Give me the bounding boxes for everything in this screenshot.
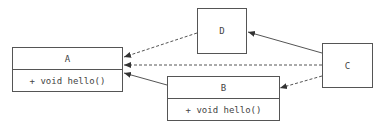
class-b-name: B	[168, 77, 279, 99]
class-c-name: C	[345, 61, 350, 71]
class-b-method: + void hello()	[168, 99, 279, 120]
class-a-name: A	[13, 48, 122, 70]
class-b[interactable]: B + void hello()	[167, 76, 280, 121]
edge-d-to-a	[124, 33, 197, 57]
class-d[interactable]: D	[197, 8, 247, 54]
class-d-name: D	[219, 26, 224, 36]
edge-c-to-d	[248, 32, 322, 53]
edge-b-to-a	[124, 73, 167, 85]
class-a[interactable]: A + void hello()	[12, 47, 123, 92]
class-c[interactable]: C	[322, 43, 373, 88]
class-a-method: + void hello()	[13, 70, 122, 91]
edge-c-to-b	[280, 76, 322, 88]
